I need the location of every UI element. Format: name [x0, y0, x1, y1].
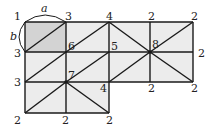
- vertex-label: 4: [100, 82, 107, 95]
- vertex-label: 3: [65, 10, 72, 23]
- vertex-label: 3: [14, 76, 21, 89]
- lower-region-fill: [25, 82, 109, 113]
- height-label-b: b: [10, 30, 17, 43]
- vertex-label: 2: [62, 114, 69, 127]
- width-label-a: a: [41, 2, 48, 15]
- grid-diagram: a b 1 3 4 2 2 3 6 5 8 2 3 7 4 2 2 2 2 2: [0, 0, 214, 137]
- vertex-label: 7: [68, 69, 75, 82]
- vertex-label: 2: [14, 114, 21, 127]
- vertex-label: 1: [14, 10, 21, 23]
- width-arc: [25, 15, 66, 22]
- vertex-label: 3: [14, 47, 21, 60]
- vertex-label: 2: [198, 47, 205, 60]
- vertex-label: 2: [191, 82, 198, 95]
- vertex-label: 2: [191, 10, 198, 23]
- vertex-label: 4: [106, 10, 113, 23]
- vertex-label: 8: [152, 38, 159, 51]
- vertex-label: 5: [111, 40, 118, 53]
- vertex-label: 2: [148, 10, 155, 23]
- vertex-label: 2: [148, 82, 155, 95]
- vertex-label: 2: [106, 114, 113, 127]
- vertex-label: 6: [68, 40, 75, 53]
